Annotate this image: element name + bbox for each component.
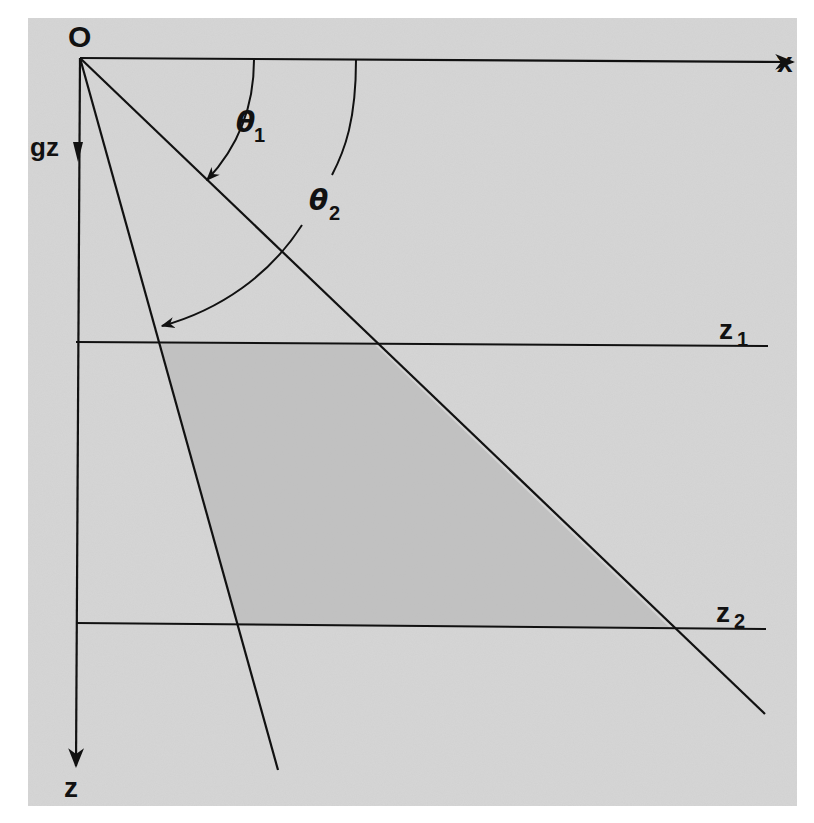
z-axis-label: z: [64, 772, 78, 803]
theta1-label: θ: [236, 106, 255, 139]
z1-label: z: [719, 314, 733, 345]
x-axis-label: x: [777, 47, 793, 78]
z2-subscript: 2: [734, 610, 745, 632]
theta2-subscript: 2: [329, 202, 340, 224]
wedge-diagram: O x gz z θ 1 θ 2 z 1 z 2: [0, 0, 814, 823]
origin-label: O: [68, 20, 91, 53]
theta2-label: θ: [309, 184, 328, 217]
gravity-label: gz: [30, 132, 59, 162]
z2-label: z: [716, 597, 730, 628]
z1-subscript: 1: [737, 328, 748, 350]
theta1-subscript: 1: [254, 124, 265, 146]
